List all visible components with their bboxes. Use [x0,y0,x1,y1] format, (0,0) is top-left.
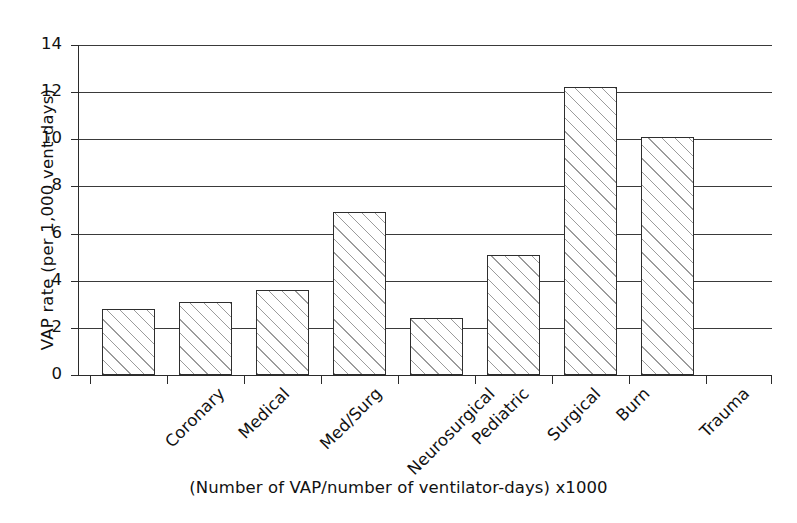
y-tick-2 [71,328,78,329]
bar-pediatric [410,318,463,375]
y-tick-0 [71,375,78,376]
gridline-14 [78,45,772,46]
gridline-12 [78,92,772,93]
bar-burn [564,87,617,375]
x-axis-label-text: Surgical [543,384,604,445]
y-axis-line [78,45,79,375]
bar-med-surg [256,290,309,375]
x-tick-6 [552,375,553,384]
y-tick-6 [71,234,78,235]
x-axis-label-text: Trauma [696,384,753,441]
x-tick-0 [90,375,91,384]
chart-caption: (Number of VAP/number of ventilator-days… [0,478,797,497]
x-tick-5 [475,375,476,384]
y-tick-label-10: 10 [2,130,62,147]
x-axis-label-text: Coronary [161,384,228,451]
bar-coronary [102,309,155,375]
y-tick-label-6: 6 [2,225,62,242]
x-axis-label-med-surg: Med/Surg [316,384,385,453]
bar-surgical [487,255,540,375]
y-tick-label-14: 14 [2,36,62,53]
x-axis-line [78,375,772,376]
y-tick-label-12: 12 [2,83,62,100]
y-tick-12 [71,92,78,93]
y-tick-8 [71,186,78,187]
y-tick-label-0: 0 [2,366,62,383]
x-tick-8 [706,375,707,384]
x-axis-label-text: Medical [234,384,293,443]
x-axis-label-burn: Burn [612,384,653,425]
x-tick-1 [167,375,168,384]
x-axis-label-surgical: Surgical [543,384,604,445]
y-tick-label-2: 2 [2,319,62,336]
bar-neurosurgical [333,212,386,375]
x-axis-label-text: Med/Surg [316,384,385,453]
x-tick-end [771,375,772,384]
bar-trauma [641,137,694,375]
x-tick-3 [321,375,322,384]
x-tick-7 [629,375,630,384]
y-tick-4 [71,281,78,282]
x-tick-2 [244,375,245,384]
plot-area [78,45,772,375]
y-tick-14 [71,45,78,46]
x-axis-label-coronary: Coronary [161,384,228,451]
x-axis-label-medical: Medical [234,384,293,443]
x-axis-label-trauma: Trauma [696,384,753,441]
vap-rate-bar-chart: VAP rate (per 1,000 vent-days) 0 2 4 6 8… [0,0,797,523]
y-tick-10 [71,139,78,140]
y-tick-label-8: 8 [2,177,62,194]
x-tick-4 [398,375,399,384]
y-tick-label-4: 4 [2,272,62,289]
x-axis-label-text: Burn [612,384,653,425]
bar-medical [179,302,232,375]
